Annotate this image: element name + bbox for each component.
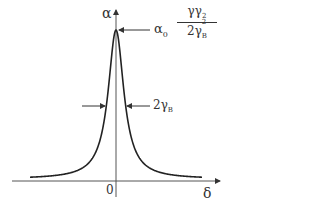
width-label: 2γB xyxy=(153,99,173,114)
peak-fraction: γγ2 2γ2B xyxy=(177,5,217,41)
peak-label: α0 xyxy=(154,22,168,39)
x-axis-label: δ xyxy=(203,186,211,200)
origin-label: 0 xyxy=(106,184,114,196)
y-axis-label: α xyxy=(102,6,111,20)
